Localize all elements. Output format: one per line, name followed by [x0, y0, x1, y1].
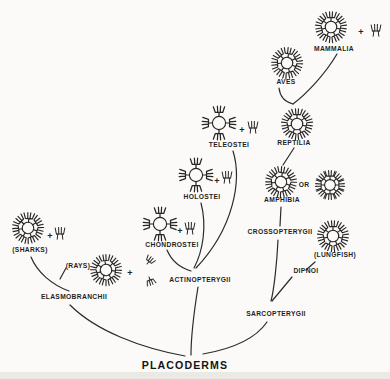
label-sharks: (SHARKS) — [12, 246, 48, 254]
label-aves: AVES — [276, 78, 295, 86]
holostei-monomer-glyph — [222, 171, 232, 183]
chondrostei-molecule-glyph — [143, 207, 177, 241]
branch-chondrostei-actinopterygii — [167, 250, 191, 271]
amphibia-alt-molecule-glyph — [316, 171, 345, 200]
plus-sign: + — [47, 232, 52, 241]
plus-sign: + — [127, 269, 132, 278]
branch-elasmobranchii-placoderms — [70, 305, 185, 356]
branch-actinopterygii-placoderms — [191, 287, 198, 355]
sharks-monomer-glyph — [55, 227, 65, 239]
reptilia-molecule-glyph — [281, 109, 313, 140]
label-crossopterygii: CROSSOPTERYGII — [248, 228, 313, 236]
label-or: OR — [299, 181, 310, 189]
scan-artifact — [0, 372, 390, 379]
label-elasmobranchii: ELASMOBRANCHII — [41, 293, 107, 301]
label-holostei: HOLOSTEI — [184, 193, 221, 201]
branch-aves — [279, 88, 293, 104]
label-sarcopterygii: SARCOPTERYGII — [246, 310, 306, 318]
aves-molecule-glyph — [268, 45, 305, 81]
plus-sign: + — [239, 126, 244, 135]
lungfish-molecule-glyph — [317, 221, 349, 252]
branch-amphibia-crossopterygii — [280, 207, 281, 226]
rays-aggregate-glyph — [143, 255, 156, 287]
branch-holostei-actinopterygii — [194, 203, 204, 268]
label-placoderms: PLACODERMS — [142, 359, 228, 371]
chondrostei-monomer-glyph — [185, 222, 195, 234]
branch-reptilia-amphibia — [283, 148, 294, 165]
diagram-canvas — [0, 0, 390, 379]
label-rays: (RAYS) — [66, 262, 91, 270]
sharks-molecule-glyph — [11, 211, 46, 245]
label-amphibia: AMPHIBIA — [264, 196, 300, 204]
branch-sarcopterygii-placoderms — [203, 322, 267, 354]
rays-molecule-glyph — [88, 253, 123, 288]
plus-sign: + — [177, 227, 182, 236]
label-mammalia: MAMMALIA — [314, 45, 354, 53]
plus-sign: + — [358, 28, 363, 37]
teleostei-molecule-glyph — [202, 106, 236, 140]
plus-sign: + — [214, 177, 219, 186]
label-reptilia: REPTILIA — [277, 139, 310, 147]
label-dipnoi: DIPNOI — [293, 267, 318, 275]
holostei-molecule-glyph — [179, 158, 213, 192]
phylogeny-diagram: + + + + + + MAMMALIA AVES REPTILIA AMPHI… — [0, 0, 390, 379]
branch-crossopterygii-sarcopterygii — [271, 240, 278, 301]
amphibia-molecule-glyph — [263, 165, 299, 201]
label-lungfish: (LUNGFISH) — [314, 251, 356, 259]
mammalia-molecule-glyph — [315, 12, 347, 43]
mammalia-monomer-glyph — [371, 24, 381, 36]
label-teleostei: TELEOSTEI — [209, 141, 249, 149]
label-actinopterygii: ACTINOPTERYGII — [169, 276, 231, 284]
teleostei-monomer-glyph — [248, 121, 258, 133]
label-chondrostei: CHONDROSTEI — [145, 241, 198, 249]
